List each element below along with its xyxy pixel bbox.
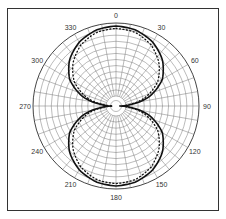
angle-label: 210: [65, 181, 77, 188]
angle-label: 150: [156, 181, 168, 188]
angle-label: 60: [191, 57, 199, 64]
angle-label: 300: [31, 57, 43, 64]
grid-spoke: [88, 28, 113, 97]
grid-spoke: [38, 109, 107, 134]
grid-spoke: [125, 109, 194, 134]
angle-label: 240: [31, 148, 43, 155]
polar-grid: [33, 23, 199, 189]
angle-label: 270: [19, 103, 31, 110]
grid-spoke: [88, 115, 113, 184]
grid-spoke: [125, 78, 194, 103]
polar-plot: 0306090120150180210240270300330: [0, 0, 226, 219]
grid-spoke: [38, 78, 107, 103]
angle-label: 90: [203, 103, 211, 110]
grid-spoke: [119, 28, 144, 97]
angle-label: 30: [158, 24, 166, 31]
angle-label: 330: [65, 24, 77, 31]
angle-label: 0: [114, 12, 118, 19]
angle-label: 120: [189, 148, 201, 155]
angle-label: 180: [110, 194, 122, 201]
grid-spoke: [119, 115, 144, 184]
